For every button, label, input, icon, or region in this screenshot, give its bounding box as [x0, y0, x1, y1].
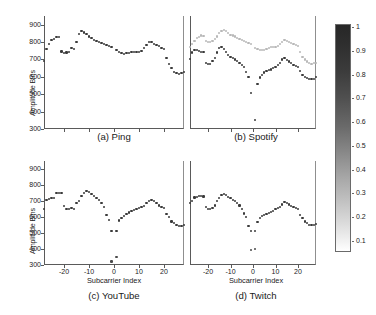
data-point — [279, 43, 281, 45]
colorbar-tickmark — [352, 27, 354, 28]
colorbar-tick-label: 0.4 — [356, 166, 366, 173]
y-tick-label: 400 — [20, 108, 41, 115]
x-tick-label: 0 — [244, 268, 262, 275]
data-point — [165, 213, 167, 215]
colorbar-tick-label: 0.6 — [356, 118, 366, 125]
data-point — [202, 51, 204, 53]
colorbar-tickmark — [352, 98, 354, 99]
y-tickmark — [41, 25, 44, 26]
data-point — [75, 41, 77, 43]
x-tickmark — [208, 129, 209, 132]
colorbar-tick-label: 0.7 — [356, 94, 366, 101]
data-point — [123, 215, 125, 217]
plot-area-twitch — [190, 161, 316, 265]
x-axis-label-youtube: Subcarrier Index — [54, 276, 174, 285]
data-point — [189, 46, 191, 48]
colorbar-tickmark — [352, 122, 354, 123]
data-point — [193, 40, 195, 42]
x-tickmark — [114, 129, 115, 132]
data-point — [238, 204, 240, 206]
data-point — [216, 51, 218, 53]
data-point — [281, 203, 283, 205]
y-tickmark — [41, 77, 44, 78]
data-point — [216, 35, 218, 37]
plot-area-spotify — [190, 16, 316, 129]
figure-root: Amplitude Bins (a) Ping (b) Spotify Ampl… — [0, 0, 376, 315]
data-point — [202, 35, 204, 37]
x-tickmark — [139, 129, 140, 132]
data-point — [183, 224, 185, 226]
data-point — [216, 200, 218, 202]
x-tickmark — [298, 129, 299, 132]
data-point — [297, 66, 299, 68]
y-tick-label: 900 — [20, 165, 41, 172]
caption-spotify: (b) Spotify — [196, 131, 316, 142]
data-point — [250, 43, 252, 45]
colorbar-tickmark — [352, 241, 354, 242]
data-point — [259, 217, 261, 219]
data-point — [256, 221, 258, 223]
colorbar-tickmark — [352, 193, 354, 194]
data-point — [241, 208, 243, 210]
y-tickmark — [41, 265, 44, 266]
data-point — [191, 51, 193, 53]
colorbar-tick-label: 0.9 — [356, 47, 366, 54]
data-point — [53, 197, 55, 199]
colorbar-tick-label: 0.1 — [356, 237, 366, 244]
data-point — [115, 256, 117, 258]
x-tickmark — [164, 129, 165, 132]
data-point — [60, 192, 62, 194]
data-point — [45, 48, 47, 50]
data-point — [170, 67, 172, 69]
y-tickmark — [41, 42, 44, 43]
colorbar-tickmark — [352, 217, 354, 218]
x-tick-label: -10 — [80, 268, 98, 275]
y-tickmark — [41, 233, 44, 234]
x-tickmark — [253, 129, 254, 132]
y-tick-label: 800 — [20, 181, 41, 188]
colorbar-tick-label: 1 — [356, 23, 360, 30]
y-tick-label: 800 — [20, 38, 41, 45]
data-point — [211, 207, 213, 209]
data-point — [80, 195, 82, 197]
x-axis-label-twitch: Subcarrier Index — [196, 276, 316, 285]
y-tickmark — [41, 185, 44, 186]
data-point — [145, 44, 147, 46]
caption-ping: (a) Ping — [54, 131, 174, 142]
data-point — [43, 60, 45, 62]
y-tick-label: 500 — [20, 90, 41, 97]
data-point — [48, 43, 50, 45]
data-point — [250, 230, 252, 232]
data-point — [261, 74, 263, 76]
data-point — [110, 260, 112, 262]
colorbar-tick-label: 0.2 — [356, 213, 366, 220]
y-tick-label: 900 — [20, 21, 41, 28]
x-tickmark — [89, 129, 90, 132]
data-point — [73, 208, 75, 210]
x-tick-label: 10 — [130, 268, 148, 275]
plot-area-ping — [44, 16, 184, 129]
colorbar-gradient — [335, 24, 351, 252]
data-point — [247, 76, 249, 78]
data-point — [315, 62, 317, 64]
y-tick-label: 300 — [20, 125, 41, 132]
data-point — [163, 48, 165, 50]
y-tick-label: 300 — [20, 261, 41, 268]
data-point — [301, 217, 303, 219]
plot-area-youtube — [44, 161, 184, 265]
x-tickmark — [64, 129, 65, 132]
colorbar-tick-label: 0.5 — [356, 142, 366, 149]
data-point — [202, 195, 204, 197]
data-point — [115, 230, 117, 232]
data-point — [279, 62, 281, 64]
data-point — [110, 46, 112, 48]
colorbar-tickmark — [352, 75, 354, 76]
colorbar-tick-label: 0.3 — [356, 189, 366, 196]
colorbar-tick-label: 0.8 — [356, 71, 366, 78]
data-point — [100, 202, 102, 204]
data-point — [143, 205, 145, 207]
caption-twitch: (d) Twitch — [196, 290, 316, 301]
x-tickmark — [231, 129, 232, 132]
data-point — [211, 60, 213, 62]
data-point — [211, 40, 213, 42]
